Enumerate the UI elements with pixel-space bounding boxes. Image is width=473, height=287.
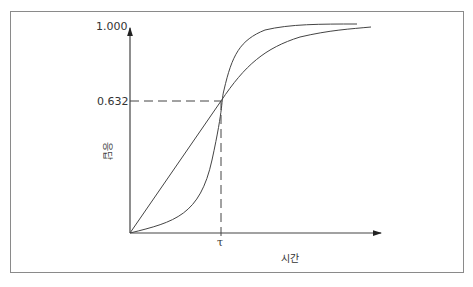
x-tick-tau: τ [217,236,223,249]
s-curve-series [130,24,357,233]
y-axis-label: 응답 [101,142,116,160]
y-tick-1000: 1.000 [96,20,128,33]
exponential-series [221,27,371,101]
x-axis-label: 시간 [281,250,299,265]
linear-segment [130,101,221,233]
y-tick-0632: 0.632 [97,95,129,108]
response-chart [0,0,473,287]
